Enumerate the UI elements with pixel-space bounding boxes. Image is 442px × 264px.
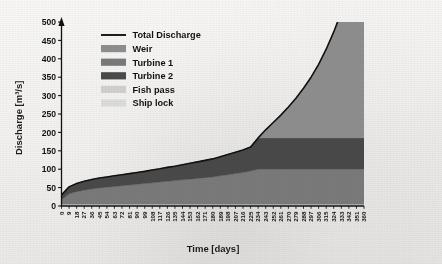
legend-swatch <box>101 59 126 66</box>
x-tick-label: 333 <box>338 211 345 222</box>
x-tick-label: 126 <box>164 211 171 222</box>
x-tick-label: 81 <box>126 211 133 218</box>
figure-container: Discharge [m³/s] 05010015020025030035040… <box>0 0 442 264</box>
y-axis-title: Discharge [m³/s] <box>13 81 24 155</box>
x-tick-label: 153 <box>186 211 193 222</box>
x-tick-label: 243 <box>262 211 269 222</box>
y-tick-label: 400 <box>42 54 57 64</box>
x-tick-label: 324 <box>330 211 337 222</box>
x-tick-label: 216 <box>239 211 246 222</box>
y-tick-label: 500 <box>42 17 57 27</box>
legend-swatch <box>101 72 126 79</box>
x-tick-label: 180 <box>209 211 216 222</box>
x-tick-label: 36 <box>88 211 95 218</box>
x-tick-label: 207 <box>232 211 239 222</box>
legend-swatch <box>101 86 126 93</box>
y-axis-ticks: 050100150200250300350400450500 <box>42 17 62 211</box>
x-tick-label: 162 <box>194 211 201 222</box>
y-tick-label: 100 <box>42 164 57 174</box>
y-tick-label: 300 <box>42 91 57 101</box>
legend-label: Ship lock <box>133 98 175 108</box>
x-axis-ticks: 0918273645546372819099108117126135144153… <box>58 206 368 222</box>
legend-swatch <box>101 99 126 106</box>
y-tick-label: 250 <box>42 109 57 119</box>
chart-legend: Total DischargeWeirTurbine 1Turbine 2Fis… <box>101 30 201 108</box>
x-tick-label: 45 <box>96 211 103 218</box>
y-tick-label: 50 <box>46 183 56 193</box>
x-tick-label: 351 <box>353 211 360 222</box>
x-tick-label: 171 <box>201 211 208 222</box>
x-tick-label: 63 <box>111 211 118 218</box>
x-tick-label: 360 <box>360 211 367 222</box>
x-tick-label: 198 <box>224 211 231 222</box>
x-tick-label: 144 <box>179 211 186 222</box>
x-tick-label: 18 <box>73 211 80 218</box>
x-tick-label: 135 <box>171 211 178 222</box>
x-tick-label: 342 <box>345 211 352 222</box>
y-tick-label: 450 <box>42 36 57 46</box>
legend-label: Turbine 1 <box>133 58 174 68</box>
legend-label: Fish pass <box>133 85 175 95</box>
x-tick-label: 270 <box>285 211 292 222</box>
legend-label: Total Discharge <box>133 30 201 40</box>
legend-swatch <box>101 45 126 52</box>
x-tick-label: 315 <box>322 211 329 222</box>
y-tick-label: 200 <box>42 128 57 138</box>
x-axis-title: Time [days] <box>187 243 240 254</box>
x-tick-label: 252 <box>270 211 277 222</box>
x-tick-label: 279 <box>292 211 299 222</box>
y-tick-label: 350 <box>42 72 57 82</box>
x-tick-label: 99 <box>141 211 148 218</box>
y-tick-label: 0 <box>51 201 56 211</box>
x-tick-label: 108 <box>149 211 156 222</box>
x-tick-label: 117 <box>156 211 163 222</box>
x-tick-label: 234 <box>254 211 261 222</box>
legend-label: Turbine 2 <box>133 71 174 81</box>
x-tick-label: 288 <box>300 211 307 222</box>
x-tick-label: 0 <box>58 211 65 215</box>
x-tick-label: 189 <box>217 211 224 222</box>
discharge-stacked-area-chart: Discharge [m³/s] 05010015020025030035040… <box>0 0 442 264</box>
x-tick-label: 72 <box>118 211 125 218</box>
x-tick-label: 27 <box>80 211 87 218</box>
x-tick-label: 261 <box>277 211 284 222</box>
x-tick-label: 306 <box>315 211 322 222</box>
y-tick-label: 150 <box>42 146 57 156</box>
x-tick-label: 225 <box>247 211 254 222</box>
legend-label: Weir <box>133 44 153 54</box>
x-tick-label: 54 <box>103 211 110 218</box>
x-tick-label: 297 <box>307 211 314 222</box>
x-tick-label: 9 <box>65 211 72 215</box>
x-tick-label: 90 <box>133 211 140 218</box>
